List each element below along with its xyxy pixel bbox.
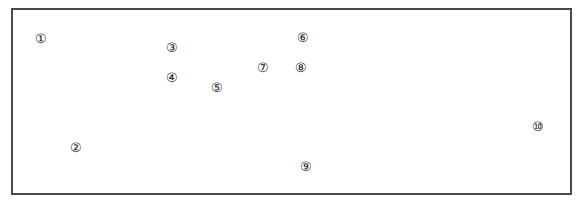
marker-10: ⑩ — [532, 120, 544, 133]
marker-7: ⑦ — [257, 61, 269, 74]
marker-4: ④ — [166, 71, 178, 84]
diagram-frame — [11, 8, 572, 195]
marker-1: ① — [35, 32, 47, 45]
marker-3: ③ — [166, 41, 178, 54]
marker-5: ⑤ — [211, 81, 223, 94]
marker-9: ⑨ — [300, 160, 312, 173]
marker-8: ⑧ — [295, 61, 307, 74]
marker-6: ⑥ — [297, 31, 309, 44]
marker-2: ② — [70, 141, 82, 154]
